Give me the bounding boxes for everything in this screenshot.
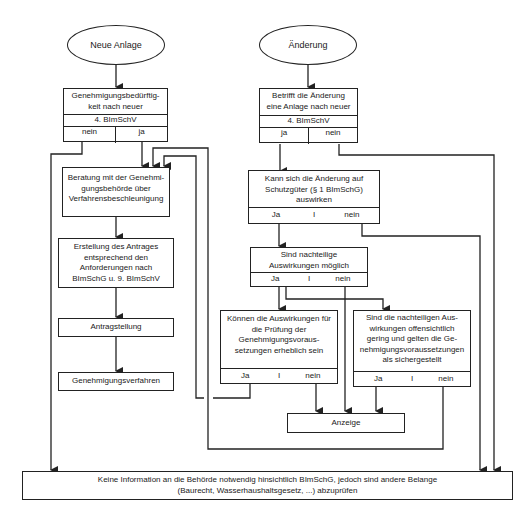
decision-auswirkungen-erheblich: Können die Auswirkungen für die Prüfung …	[220, 310, 338, 384]
result-anzeige: Anzeige	[287, 413, 405, 433]
box-text: eine Anlage nach neuer	[262, 102, 355, 113]
step-erstellung-antrag: Erstellung des Antrages entsprechend den…	[58, 238, 174, 288]
decision-genehmigungsbeduerftigkeit: Genehmigungsbedürftig- keit nach neuer 4…	[63, 88, 168, 142]
option-nein: nein	[308, 128, 357, 144]
box-text: Auswirkungen möglich	[253, 261, 365, 272]
box-text: entsprechend den	[59, 253, 173, 264]
box-text: keit nach neuer	[66, 102, 165, 113]
option-ja: ja	[115, 127, 167, 143]
option-separator: I	[402, 372, 421, 386]
start-label: Neue Anlage	[90, 40, 142, 50]
decision-betrifft-aenderung: Betrifft die Änderung eine Anlage nach n…	[259, 88, 358, 143]
start-neue-anlage: Neue Anlage	[67, 25, 165, 65]
box-text: gungsbehörde über	[63, 184, 169, 195]
step-beratung: Beratung mit der Genehmi- gungsbehörde ü…	[62, 167, 170, 217]
option-separator: I	[269, 369, 288, 383]
box-text: wirkungen offensichtlich	[355, 324, 469, 335]
box-text: Erstellung des Antrages	[59, 242, 173, 253]
option-ja: Ja	[221, 369, 269, 383]
decision-schutzgueter: Kann sich die Änderung auf Schutzgüter (…	[248, 170, 380, 224]
box-subtitle: 4. BImSchV	[260, 115, 357, 127]
box-text: Sind die nachteiligen Aus-	[355, 313, 469, 324]
decision-auswirkungen-gering: Sind die nachteiligen Aus- wirkungen off…	[353, 310, 471, 387]
box-text: (Baurecht, Wasserhaushaltsgesetz, ...) a…	[23, 486, 512, 497]
step-antragstellung: Antragstellung	[58, 318, 174, 337]
box-subtitle: 4. BImSchV	[64, 114, 167, 126]
box-text: Genehmigungsverfahren	[72, 376, 160, 387]
step-genehmigungsverfahren: Genehmigungsverfahren	[58, 372, 174, 391]
option-nein: nein	[325, 208, 379, 222]
decision-nachteilige-auswirkungen: Sind nachteilige Auswirkungen möglich Ja…	[250, 247, 368, 287]
box-text: Betrifft die Änderung	[262, 91, 355, 102]
box-text: als sichergestellt	[355, 355, 469, 366]
flowchart: Neue Anlage Änderung Genehmigungsbedürft…	[0, 0, 527, 524]
box-text: Genehmigungsvoraus-	[223, 335, 335, 346]
box-text: Anzeige	[332, 418, 361, 429]
box-text: Beratung mit der Genehmi-	[63, 173, 169, 184]
option-nein: nein	[64, 127, 115, 143]
option-separator: I	[303, 208, 325, 222]
option-nein: nein	[289, 369, 337, 383]
box-text: Sind nachteilige	[253, 250, 365, 261]
box-text: auswirken	[251, 195, 377, 206]
option-ja: Ja	[251, 273, 299, 286]
box-text: Schutzgüter (§ 1 BImSchG)	[251, 185, 377, 196]
box-text: nehmigungsvoraussetzungen	[355, 345, 469, 356]
option-separator: I	[299, 273, 318, 286]
box-text: BImSchG u. 9. BImSchV	[59, 274, 173, 285]
option-ja: Ja	[354, 372, 402, 386]
box-text: die Prüfung der	[223, 325, 335, 336]
box-text: Antragstellung	[90, 322, 141, 333]
option-nein: nein	[319, 273, 367, 286]
option-nein: nein	[422, 372, 470, 386]
box-text: Kann sich die Änderung auf	[251, 174, 377, 185]
option-ja: ja	[260, 128, 308, 144]
box-text: Verfahrensbeschleunigung	[63, 194, 169, 205]
box-text: gering und gelten die Ge-	[355, 334, 469, 345]
box-text: Keine Information an die Behörde notwend…	[23, 475, 512, 486]
start-label: Änderung	[288, 40, 327, 50]
box-text: setzungen erheblich sein	[223, 346, 335, 357]
result-keine-information: Keine Information an die Behörde notwend…	[22, 471, 513, 500]
option-ja: Ja	[249, 208, 303, 222]
box-text: Können die Auswirkungen für	[223, 314, 335, 325]
box-text: Anforderungen nach	[59, 263, 173, 274]
box-text: Genehmigungsbedürftig-	[66, 91, 165, 102]
start-aenderung: Änderung	[259, 25, 357, 65]
